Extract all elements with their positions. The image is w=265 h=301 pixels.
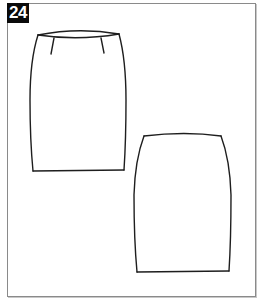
back-left-side-seam [134,136,144,272]
front-waistband-bottom [38,34,119,38]
back-right-side-seam [221,136,231,271]
skirt-front-view [30,31,126,171]
front-left-side-seam [30,35,38,171]
skirt-drawings [0,0,265,301]
back-hem [137,271,229,272]
front-hem [33,170,124,171]
skirt-back-view [134,134,231,273]
front-right-side-seam [119,34,126,170]
front-left-dart [51,38,54,54]
front-waistband-top [38,31,119,35]
back-waistline [144,134,221,137]
front-right-dart [101,38,104,53]
